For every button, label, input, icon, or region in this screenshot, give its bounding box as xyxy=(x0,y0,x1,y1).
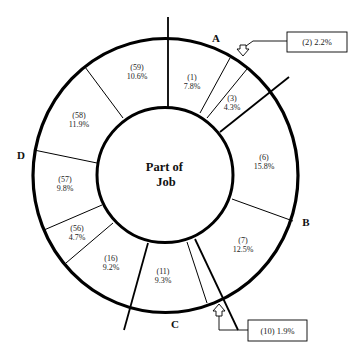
axis-line-c xyxy=(124,243,148,330)
segment-percent: 4.7% xyxy=(69,233,86,242)
point-label-c: C xyxy=(171,318,179,330)
segment-percent: 4.3% xyxy=(224,103,241,112)
segment-percent: 10.6% xyxy=(127,72,148,81)
center-label: Part of Job xyxy=(146,160,186,189)
segment-number: (6) xyxy=(259,153,269,162)
segment-number: (1) xyxy=(187,73,197,82)
callout-leader-line xyxy=(219,316,248,330)
segment-label-6: (6) 15.8% xyxy=(254,153,275,171)
segment-number: (7) xyxy=(238,236,248,245)
segment-percent: 9.8% xyxy=(57,184,74,193)
segment-number: (58) xyxy=(72,111,86,120)
segment-number: (11) xyxy=(156,267,169,276)
segment-percent: 9.3% xyxy=(155,276,172,285)
part-of-job-ring-diagram: Part of Job A B C D (1) 7.8% (3) 4.3% (6… xyxy=(0,0,364,356)
point-label-b: B xyxy=(302,216,310,228)
segment-number: (59) xyxy=(130,63,144,72)
segment-label-58: (58) 11.9% xyxy=(69,111,90,129)
callout-segment-10: (10) 1.9% xyxy=(213,304,307,341)
segment-label-16: (16) 9.2% xyxy=(103,254,120,272)
segment-label-11: (11) 9.3% xyxy=(155,267,172,285)
callout-segment-2: (2) 2.2% xyxy=(237,32,347,56)
segment-percent: 12.5% xyxy=(233,245,254,254)
callout-text: (2) 2.2% xyxy=(302,37,332,47)
segment-percent: 7.8% xyxy=(184,82,201,91)
segment-number: (56) xyxy=(70,224,84,233)
segment-label-59: (59) 10.6% xyxy=(127,63,148,81)
segment-number: (57) xyxy=(58,175,72,184)
segment-label-3: (3) 4.3% xyxy=(224,94,241,112)
segment-percent: 9.2% xyxy=(103,263,120,272)
segment-label-56: (56) 4.7% xyxy=(69,224,86,242)
point-label-a: A xyxy=(212,32,220,44)
down-arrow-icon xyxy=(237,45,249,56)
segment-label-57: (57) 9.8% xyxy=(57,175,74,193)
point-label-d: D xyxy=(17,149,25,161)
segment-label-7: (7) 12.5% xyxy=(233,236,254,254)
divider-10-11 xyxy=(187,242,207,303)
segment-number: (16) xyxy=(104,254,118,263)
up-arrow-icon xyxy=(213,304,225,316)
segment-number: (3) xyxy=(227,94,237,103)
divider-57-58 xyxy=(34,150,97,163)
segment-percent: 11.9% xyxy=(69,120,90,129)
segment-label-1: (1) 7.8% xyxy=(184,73,201,91)
divider-6-7 xyxy=(232,199,293,221)
callout-text: (10) 1.9% xyxy=(261,326,295,336)
callout-leader-line xyxy=(246,41,287,46)
segment-percent: 15.8% xyxy=(254,162,275,171)
divider-58-59 xyxy=(85,67,123,118)
